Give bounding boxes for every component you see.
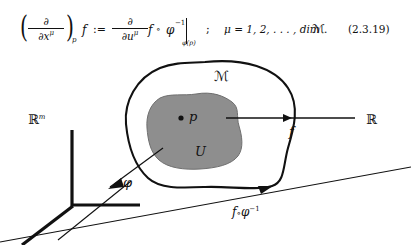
chart-phi-label: φ (123, 175, 132, 190)
equation-2-3-19: ( ∂ ∂xμ ) p f := ∂ ∂uμ f ∘ φ −1 φ(p) ; (0, 6, 411, 50)
figure-page: ( ∂ ∂xμ ) p f := ∂ ∂uμ f ∘ φ −1 φ(p) ; (0, 0, 411, 245)
equation-phi-symbol: φ (166, 23, 174, 37)
rm-axis-depth (22, 206, 73, 245)
domain-rm-label: ℝm (28, 112, 45, 127)
manifold-chart-diagram: ℳ U p ℝm ℝ f φ f∘φ−1 (0, 50, 411, 245)
composite-map-label: f∘φ−1 (232, 205, 260, 219)
equation-defined-as: := (93, 23, 106, 36)
lhs-denominator-base: ∂x (38, 30, 49, 42)
codomain-r-label: ℝ (366, 112, 377, 127)
lhs-fraction-numerator: ∂ (28, 16, 64, 27)
equation-paren-subscript: p (72, 36, 76, 44)
index-range-text: μ = 1, 2, . . . , dim (224, 23, 320, 35)
rhs-fraction-numerator: ∂ (112, 16, 148, 27)
equation-phi-exponent: −1 (175, 19, 185, 27)
point-p-dot (178, 115, 183, 120)
map-f-label: f (289, 124, 294, 139)
manifold-label: ℳ (214, 68, 229, 84)
chart-phi-arrowhead (108, 178, 124, 189)
open-set-label: U (195, 144, 206, 159)
rhs-denominator-exponent: μ (134, 29, 139, 37)
equation-lhs-fraction: ∂ ∂xμ (28, 16, 64, 42)
rhs-fraction-denominator: ∂uμ (112, 30, 148, 42)
equation-compose-operator: ∘ (156, 24, 160, 34)
eval-subscript-close: ) (193, 39, 196, 47)
equation-paren-open: ( (20, 12, 28, 42)
equation-period: . (324, 23, 327, 35)
equation-rhs-function: f (148, 23, 152, 37)
equation-index-range: μ = 1, 2, . . . , dim (224, 23, 320, 35)
equation-separator: ; (206, 23, 210, 36)
equation-lhs-function: f (82, 23, 86, 37)
equation-number: (2.3.19) (348, 23, 390, 35)
domain-rm-exponent: m (39, 113, 46, 121)
domain-rm-base: ℝ (28, 112, 39, 127)
lhs-denominator-exponent: μ (49, 29, 54, 37)
rhs-denominator-base: ∂u (122, 30, 134, 42)
lhs-fraction-denominator: ∂xμ (28, 30, 64, 42)
equation-evaluation-subscript: φ(p) (182, 39, 196, 47)
equation-rhs-fraction: ∂ ∂uμ (112, 16, 148, 42)
composite-label-exponent: −1 (249, 205, 259, 213)
map-f-arrowhead (283, 114, 292, 122)
point-p-label: p (189, 109, 197, 124)
composite-map-line (0, 167, 411, 242)
